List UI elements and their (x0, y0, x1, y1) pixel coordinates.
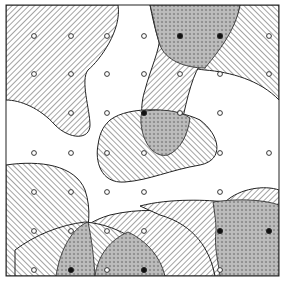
open-point-icon (142, 34, 147, 39)
filled-point-icon (217, 228, 222, 233)
open-point-icon (218, 111, 223, 116)
region-diagram (0, 0, 284, 283)
open-point-icon (32, 268, 37, 273)
open-point-icon (69, 34, 74, 39)
bottom-right-crosshatch-overlap (213, 200, 279, 276)
open-point-icon (178, 111, 183, 116)
open-point-icon (69, 229, 74, 234)
open-point-icon (105, 268, 110, 273)
open-point-icon (69, 151, 74, 156)
open-point-icon (218, 268, 223, 273)
filled-point-icon (141, 110, 146, 115)
filled-point-icon (177, 33, 182, 38)
open-point-icon (69, 111, 74, 116)
open-point-icon (142, 229, 147, 234)
filled-point-icon (217, 33, 222, 38)
filled-point-icon (266, 228, 271, 233)
open-point-icon (178, 72, 183, 77)
open-point-icon (105, 190, 110, 195)
open-point-icon (218, 190, 223, 195)
open-point-icon (32, 34, 37, 39)
open-point-icon (267, 72, 272, 77)
filled-point-icon (68, 267, 73, 272)
open-point-icon (218, 151, 223, 156)
open-point-icon (142, 190, 147, 195)
open-point-icon (105, 111, 110, 116)
open-point-icon (32, 190, 37, 195)
open-point-icon (69, 72, 74, 77)
open-point-icon (218, 72, 223, 77)
open-point-icon (105, 229, 110, 234)
open-point-icon (32, 72, 37, 77)
open-point-icon (32, 229, 37, 234)
open-point-icon (267, 34, 272, 39)
open-point-icon (32, 151, 37, 156)
filled-point-icon (141, 267, 146, 272)
open-point-icon (142, 151, 147, 156)
open-point-icon (142, 72, 147, 77)
open-point-icon (69, 190, 74, 195)
open-point-icon (105, 34, 110, 39)
open-point-icon (105, 72, 110, 77)
open-point-icon (105, 151, 110, 156)
open-point-icon (267, 151, 272, 156)
